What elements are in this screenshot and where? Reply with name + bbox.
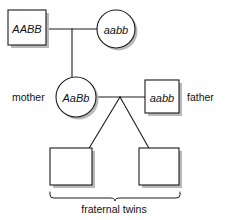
genotype-label: aabb [150,92,174,104]
twins-caption: fraternal twins [81,203,146,215]
pedigree-canvas: AABB aabb AaBb mother aabb [0,0,228,220]
genotype-label: AABB [11,23,41,35]
twin-node-right[interactable] [139,148,182,188]
maternal-grandfather-node[interactable]: AABB [8,10,49,48]
generation-2: AaBb mother aabb father [12,77,214,120]
generation-3: fraternal twins [50,148,182,215]
generation-1: AABB aabb [8,10,138,51]
maternal-grandmother-node[interactable]: aabb [97,10,138,51]
pedigree-diagram: AABB aabb AaBb mother aabb [0,0,228,220]
mother-role-label: mother [12,91,45,103]
twin-node-left[interactable] [50,148,95,188]
father-role-label: father [187,91,214,103]
square-outline [139,148,179,185]
twins-brace [50,192,180,201]
father-node[interactable]: aabb [145,80,182,116]
genotype-label: aabb [104,24,128,36]
genotype-label: AaBb [62,92,90,104]
square-outline [50,148,92,185]
mother-node[interactable]: AaBb [56,77,99,120]
